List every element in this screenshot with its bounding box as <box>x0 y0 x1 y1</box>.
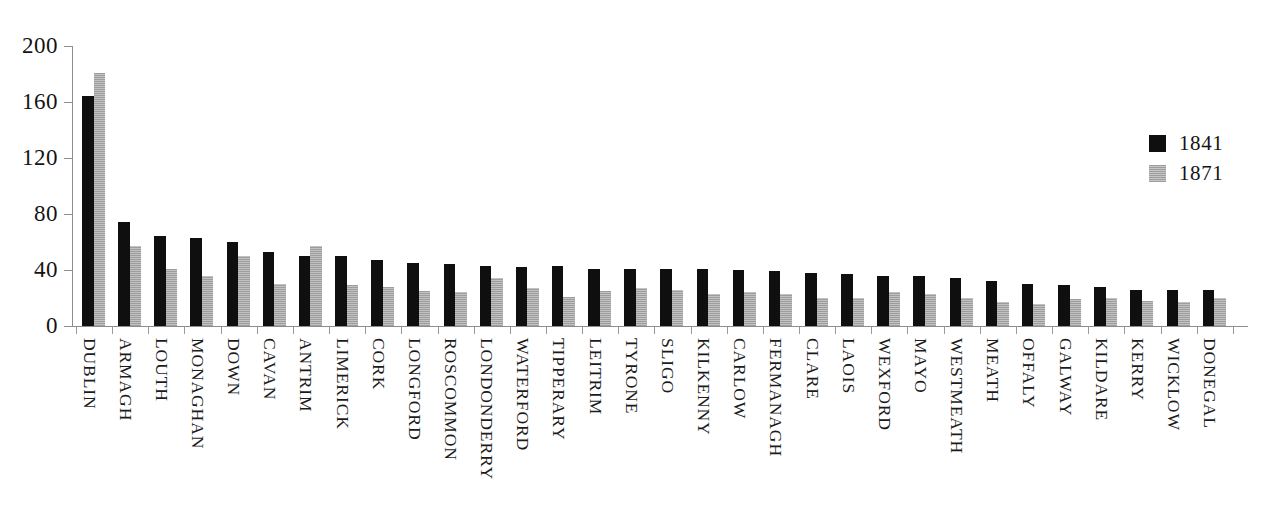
x-axis-tick <box>510 327 511 334</box>
bar-1871 <box>853 298 865 326</box>
bar-1871 <box>1142 301 1154 326</box>
x-axis-category-label: LIMERICK <box>333 338 351 430</box>
bar-1871 <box>1106 298 1118 326</box>
bar-1871 <box>600 291 612 326</box>
y-axis-tick-label: 160 <box>0 90 58 113</box>
x-axis-category-label: WESTMEATH <box>948 338 966 454</box>
bar-1841 <box>552 266 564 326</box>
legend-label: 1871 <box>1179 163 1223 184</box>
legend-item-1841[interactable]: 1841 <box>1149 128 1269 158</box>
x-axis-category-label: WEXFORD <box>875 338 893 431</box>
gray-hatched-swatch-icon <box>1149 165 1166 182</box>
x-axis-category-label: SLIGO <box>658 338 676 394</box>
x-axis-category-label: MEATH <box>984 338 1002 403</box>
bar-1871 <box>744 292 756 326</box>
y-axis-tick <box>64 326 73 327</box>
x-axis-category-label: TIPPERARY <box>550 338 568 440</box>
bar-1871 <box>202 276 214 326</box>
bar-1871 <box>527 288 539 326</box>
bar-1871 <box>961 298 973 326</box>
x-axis-tick <box>691 327 692 334</box>
x-axis-category-label: OFFALY <box>1020 338 1038 408</box>
x-axis-category-label: TYRONE <box>622 338 640 414</box>
bar-1871 <box>817 298 829 326</box>
y-axis-tick <box>64 270 73 271</box>
x-axis-tick <box>799 327 800 334</box>
bar-1841 <box>805 273 817 326</box>
x-axis-tick <box>401 327 402 334</box>
black-solid-swatch-icon <box>1149 135 1166 152</box>
x-axis-category-label: MAYO <box>911 338 929 393</box>
bar-1841 <box>913 276 925 326</box>
x-axis-tick <box>1161 327 1162 334</box>
bar-1841 <box>624 269 636 326</box>
x-axis-category-label: LEITRIM <box>586 338 604 415</box>
x-axis-category-label: GALWAY <box>1056 338 1074 416</box>
x-axis-category-label: CARLOW <box>731 338 749 419</box>
bar-1841 <box>480 266 492 326</box>
bar-1871 <box>94 73 106 326</box>
bar-1841 <box>299 256 311 326</box>
bar-1871 <box>310 246 322 326</box>
bar-1871 <box>1178 302 1190 326</box>
x-axis-tick <box>546 327 547 334</box>
x-axis-category-label: ARMAGH <box>116 338 134 421</box>
bar-1871 <box>925 294 937 326</box>
bar-1841 <box>697 269 709 326</box>
bar-1871 <box>997 302 1009 326</box>
bar-1841 <box>660 269 672 326</box>
x-axis-tick <box>474 327 475 334</box>
x-axis-tick <box>907 327 908 334</box>
bar-1841 <box>407 263 419 326</box>
y-axis-tick-label: 120 <box>0 146 58 169</box>
bar-1871 <box>780 294 792 326</box>
x-axis-category-label: WICKLOW <box>1165 338 1183 431</box>
bar-1841 <box>950 278 962 326</box>
bar-1841 <box>1058 285 1070 326</box>
x-axis-tick <box>257 327 258 334</box>
bar-chart: 04080120160200 DUBLINARMAGHLOUTHMONAGHAN… <box>0 0 1274 528</box>
bar-1841 <box>154 236 166 326</box>
x-axis-category-label: MONAGHAN <box>188 338 206 449</box>
x-axis-category-label: LAOIS <box>839 338 857 394</box>
y-axis-tick <box>64 102 73 103</box>
x-axis-category-label: KILDARE <box>1092 338 1110 421</box>
legend-label: 1841 <box>1179 133 1223 154</box>
bar-1841 <box>516 267 528 326</box>
x-axis-tick <box>980 327 981 334</box>
bar-1841 <box>1130 290 1142 326</box>
legend-item-1871[interactable]: 1871 <box>1149 158 1269 188</box>
bar-1841 <box>841 274 853 326</box>
bar-1841 <box>190 238 202 326</box>
bar-1871 <box>1033 304 1045 326</box>
bar-1871 <box>672 290 684 326</box>
x-axis-tick <box>1197 327 1198 334</box>
bar-1871 <box>419 291 431 326</box>
bar-1841 <box>588 269 600 326</box>
legend: 1841 1871 <box>1149 128 1269 188</box>
bar-1871 <box>238 256 250 326</box>
x-axis-tick <box>184 327 185 334</box>
x-axis-tick <box>654 327 655 334</box>
x-axis-category-label: DUBLIN <box>80 338 98 410</box>
x-axis-category-label: ROSCOMMON <box>442 338 460 461</box>
x-axis-tick <box>1088 327 1089 334</box>
bar-1841 <box>371 260 383 326</box>
bar-1841 <box>82 96 94 326</box>
bar-1871 <box>1214 298 1226 326</box>
bar-1871 <box>166 269 178 326</box>
x-axis-tick <box>871 327 872 334</box>
x-axis-tick <box>1233 327 1234 334</box>
y-axis-tick-label: 80 <box>0 202 58 225</box>
bar-1841 <box>877 276 889 326</box>
bar-1871 <box>491 278 503 326</box>
x-axis-tick <box>438 327 439 334</box>
x-axis-tick <box>293 327 294 334</box>
y-axis-tick-label: 40 <box>0 258 58 281</box>
x-axis-tick <box>1052 327 1053 334</box>
bar-1871 <box>636 288 648 326</box>
bar-1871 <box>274 284 286 326</box>
y-axis-tick <box>64 46 73 47</box>
x-axis-tick <box>727 327 728 334</box>
bar-1871 <box>130 246 142 326</box>
